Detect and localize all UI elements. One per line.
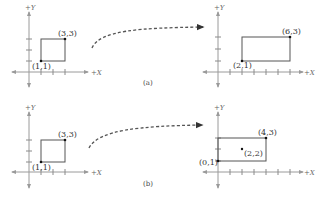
point-label: (3,3) [58, 130, 77, 139]
corner-point [64, 139, 67, 142]
corner-point [289, 36, 292, 39]
panel-caption: (b) [143, 180, 153, 188]
panel-a: (1,1) (3,3) +Y +X (a) [12, 4, 316, 87]
panel-caption: (a) [143, 79, 153, 87]
point-label: (2,1) [233, 61, 252, 70]
x-axis-label: +X [91, 169, 103, 177]
rectangle [41, 39, 65, 61]
point-label: (6,3) [282, 27, 301, 36]
transform-arrow [92, 27, 203, 48]
corner-point [265, 137, 268, 140]
y-axis-label: +Y [25, 104, 37, 112]
point-label: (3,3) [58, 29, 77, 38]
rectangle [41, 140, 65, 162]
center-point [241, 148, 243, 150]
panel-a-after-plot: (2,1) (6,3) +Y +X [203, 4, 316, 87]
panel-a-before-plot: (1,1) (3,3) +Y +X [12, 4, 103, 87]
panel-b-after-plot: (0,1) (4,3) (2,2) +Y +X [199, 104, 316, 188]
point-label: (1,1) [32, 62, 51, 71]
y-axis-label: +Y [214, 104, 226, 112]
panel-b: (1,1) (3,3) +Y +X (b) [12, 104, 316, 188]
point-label: (4,3) [258, 128, 277, 137]
transform-arrow [89, 125, 202, 148]
x-axis-label: +X [91, 69, 103, 77]
y-axis-label: +Y [25, 4, 37, 12]
rectangle [242, 37, 290, 61]
y-axis-label: +Y [214, 4, 226, 12]
point-label: (1,1) [32, 163, 51, 172]
corner-point [64, 38, 67, 41]
transformation-diagram: (1,1) (3,3) +Y +X (a) [0, 0, 323, 201]
center-label: (2,2) [244, 149, 263, 158]
x-axis-label: +X [304, 69, 316, 77]
panel-b-before-plot: (1,1) (3,3) +Y +X [12, 104, 103, 188]
point-label: (0,1) [199, 158, 218, 167]
x-axis-label: +X [304, 169, 316, 177]
